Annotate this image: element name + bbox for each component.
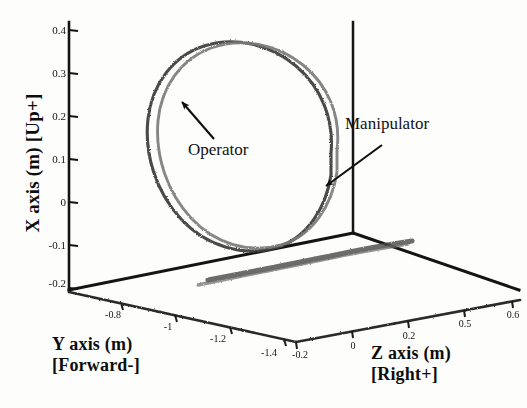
y-axis-title-direction: [Forward-]: [52, 355, 140, 376]
z-tick-label-0: -0.2: [284, 349, 316, 360]
z-axis-title-main: Z axis (m): [371, 343, 451, 364]
y-axis-title: Y axis (m) [Forward-]: [52, 334, 140, 376]
annotation-operator: Operator: [188, 140, 248, 160]
y-tick-label-3: -1.4: [253, 347, 285, 358]
x-tick-label-6: -0.2: [30, 277, 66, 289]
z-tick-label-2: 0.2: [396, 330, 422, 341]
annotation-manipulator: Manipulator: [345, 114, 429, 134]
x-tick-label-0: 0.4: [34, 24, 66, 36]
y-tick-label-2: -1.2: [202, 333, 234, 344]
z-tick-label-1: 0: [342, 340, 364, 351]
y-tick-label-0: -0.8: [97, 309, 129, 320]
z-tick-label-3: 0.5: [452, 318, 478, 329]
trace-floor-projection-secondary: [198, 244, 408, 285]
trajectory-figure: 0.4 0.3 0.2 0.1 0 -0.1 -0.2 -0.8 -1 -1.2…: [0, 0, 527, 408]
y-tick-label-1: -1: [154, 321, 182, 332]
y-axis-title-main: Y axis (m): [52, 334, 140, 355]
axis-frame: [69, 22, 520, 349]
operator-arrow: [182, 102, 214, 139]
z-axis-title: Z axis (m) [Right+]: [371, 343, 451, 385]
x-axis-title: X axis (m) [Up+]: [22, 68, 44, 258]
floor-edge-back-right: [353, 233, 519, 290]
x-axis-ticks: [69, 30, 78, 289]
z-tick-label-4: 0.6: [500, 309, 526, 320]
z-axis-title-direction: [Right+]: [371, 364, 451, 385]
